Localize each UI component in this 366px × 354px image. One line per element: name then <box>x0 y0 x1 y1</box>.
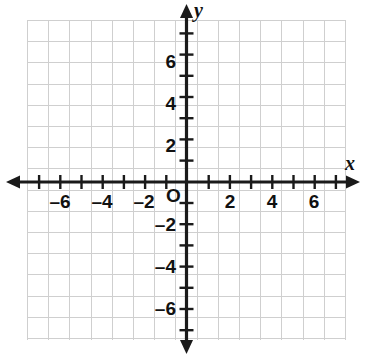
x-tick-label-neg6: –6 <box>49 192 70 211</box>
graph-canvas <box>0 0 366 354</box>
y-tick-label-4: 4 <box>165 94 176 113</box>
x-tick-label-6: 6 <box>309 192 320 211</box>
y-tick-label-2: 2 <box>165 136 176 155</box>
x-tick-label-neg4: –4 <box>91 192 112 211</box>
y-tick-label-6: 6 <box>165 52 176 71</box>
y-axis <box>180 4 193 354</box>
x-tick-label-neg2: –2 <box>133 192 154 211</box>
y-tick-label-neg6: –6 <box>155 299 176 318</box>
y-axis-name: y <box>194 0 203 20</box>
x-tick-label-2: 2 <box>225 192 236 211</box>
x-tick-label-4: 4 <box>267 192 278 211</box>
coordinate-plane: –6 –4 –2 2 4 6 6 4 2 –2 –4 –6 O x y <box>0 0 366 354</box>
x-axis-name: x <box>345 153 355 173</box>
y-tick-label-neg4: –4 <box>155 257 176 276</box>
y-tick-label-neg2: –2 <box>155 215 176 234</box>
origin-label: O <box>166 186 181 205</box>
